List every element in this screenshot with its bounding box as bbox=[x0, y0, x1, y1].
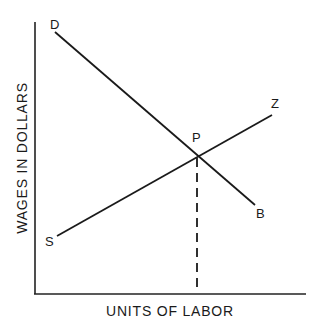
x-axis-label: UNITS OF LABOR bbox=[106, 303, 234, 319]
label-s: S bbox=[45, 234, 54, 249]
label-d: D bbox=[50, 17, 59, 32]
label-z: Z bbox=[271, 96, 279, 111]
labor-market-diagram: D B S Z P UNITS OF LABOR WAGES IN DOLLAR… bbox=[0, 0, 319, 328]
demand-curve bbox=[55, 32, 255, 205]
supply-curve bbox=[57, 115, 272, 236]
y-axis-label: WAGES IN DOLLARS bbox=[14, 82, 30, 234]
label-p: P bbox=[192, 130, 201, 145]
label-b: B bbox=[256, 206, 265, 221]
